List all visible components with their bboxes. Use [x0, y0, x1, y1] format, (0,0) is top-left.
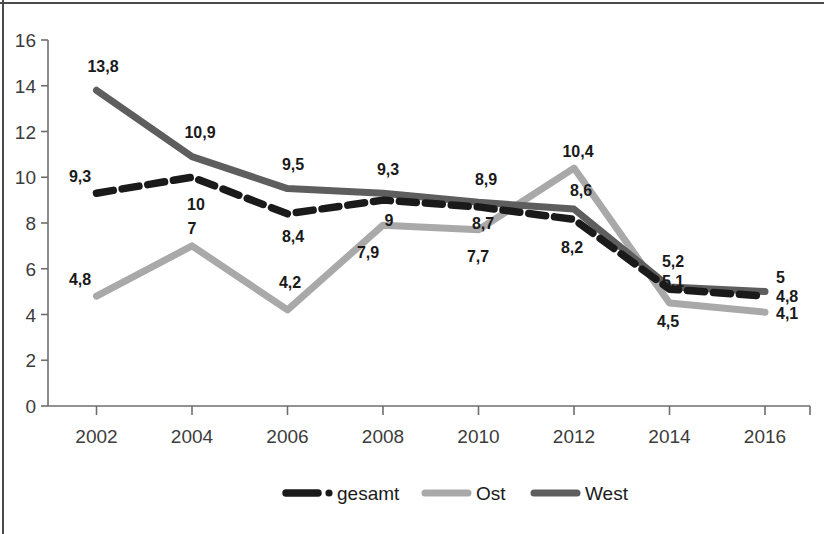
data-label-ost-2016: 4,1 — [776, 305, 798, 322]
y-tick-label-6: 6 — [25, 259, 36, 280]
legend-label-ost: Ost — [476, 483, 506, 504]
x-tick-label-2004: 2004 — [171, 426, 214, 447]
data-label-ost-2002: 4,8 — [69, 271, 91, 288]
legend-label-gesamt: gesamt — [337, 483, 400, 504]
x-axis-ticks — [97, 406, 811, 415]
data-label-west-2006: 9,5 — [282, 156, 304, 173]
data-label-gesamt-2012: 8,2 — [561, 239, 583, 256]
data-labels-west: 13,8 10,9 9,5 9,3 8,9 8,6 5,2 5 — [87, 58, 785, 286]
data-label-gesamt-2002: 9,3 — [69, 168, 91, 185]
data-label-gesamt-2006: 8,4 — [282, 228, 304, 245]
y-axis-ticks — [41, 40, 48, 406]
x-tick-label-2012: 2012 — [553, 426, 595, 447]
data-label-gesamt-2016: 4,8 — [776, 288, 798, 305]
y-tick-label-14: 14 — [15, 76, 37, 97]
data-label-ost-2014: 4,5 — [657, 313, 679, 330]
data-label-west-2016: 5 — [776, 269, 785, 286]
y-tick-label-12: 12 — [15, 122, 36, 143]
data-label-west-2012: 8,6 — [570, 182, 592, 199]
legend-item-ost[interactable]: Ost — [425, 483, 506, 504]
data-label-gesamt-2004: 10 — [187, 196, 205, 213]
x-tick-label-2016: 2016 — [744, 426, 786, 447]
y-tick-label-0: 0 — [25, 396, 36, 417]
x-tick-label-2010: 2010 — [457, 426, 499, 447]
y-tick-label-10: 10 — [15, 167, 36, 188]
series-line-ost — [97, 168, 766, 312]
data-label-ost-2006: 4,2 — [279, 274, 301, 291]
data-label-ost-2004: 7 — [188, 220, 197, 237]
x-tick-label-2008: 2008 — [362, 426, 404, 447]
chart-legend: gesamt Ost West — [286, 483, 629, 504]
legend-dot-gesamt — [325, 489, 332, 496]
data-label-gesamt-2014: 5,1 — [662, 273, 684, 290]
y-tick-label-16: 16 — [15, 30, 36, 51]
x-tick-label-2014: 2014 — [648, 426, 691, 447]
data-label-ost-2010: 7,7 — [467, 248, 489, 265]
data-label-west-2002: 13,8 — [87, 58, 118, 75]
data-label-ost-2012: 10,4 — [562, 143, 593, 160]
x-tick-label-2002: 2002 — [75, 426, 117, 447]
legend-item-gesamt[interactable]: gesamt — [286, 483, 400, 504]
chart-svg: 0 2 4 6 8 10 12 14 16 2002 2004 2006 200… — [0, 0, 824, 534]
data-label-ost-2008: 7,9 — [357, 244, 379, 261]
legend-label-west: West — [585, 483, 629, 504]
line-chart: 0 2 4 6 8 10 12 14 16 2002 2004 2006 200… — [0, 0, 824, 534]
data-label-gesamt-2008: 9 — [385, 212, 394, 229]
y-tick-label-2: 2 — [25, 350, 36, 371]
legend-item-west[interactable]: West — [534, 483, 629, 504]
y-tick-label-4: 4 — [25, 305, 36, 326]
y-tick-label-8: 8 — [25, 213, 36, 234]
chart-page: 0 2 4 6 8 10 12 14 16 2002 2004 2006 200… — [0, 0, 824, 534]
data-label-gesamt-2010: 8,7 — [472, 215, 494, 232]
data-label-west-2010: 8,9 — [475, 171, 497, 188]
data-label-west-2004: 10,9 — [184, 124, 215, 141]
data-label-west-2014: 5,2 — [662, 253, 684, 270]
data-label-west-2008: 9,3 — [377, 161, 399, 178]
x-tick-label-2006: 2006 — [266, 426, 308, 447]
